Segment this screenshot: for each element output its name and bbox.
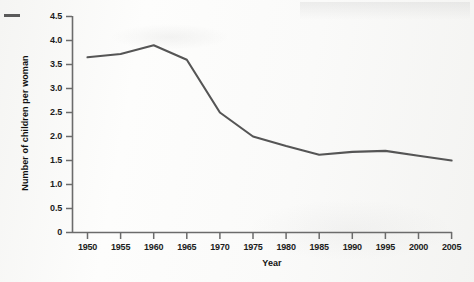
- x-tick-label: 1975: [236, 242, 270, 252]
- y-tick-label: 1.5: [36, 155, 62, 165]
- y-tick-label: 4.0: [36, 35, 62, 45]
- x-tick-label: 1970: [203, 242, 237, 252]
- y-tick-label: 1.0: [36, 179, 62, 189]
- line-chart: 4.5 4.0 3.5 3.0 2.5 2.0 1.5 1.0 0.5 0 19…: [0, 0, 474, 282]
- y-tick-label: 0.5: [36, 203, 62, 213]
- y-tick-label: 2.5: [36, 107, 62, 117]
- x-tick-label: 1990: [335, 242, 369, 252]
- x-tick-label: 1985: [302, 242, 336, 252]
- x-tick-label: 1950: [71, 242, 105, 252]
- x-tick-label: 2005: [435, 242, 469, 252]
- x-tick-label: 1960: [137, 242, 171, 252]
- x-tick-label: 1965: [170, 242, 204, 252]
- x-axis-title: Year: [232, 258, 312, 268]
- y-tick-label: 3.5: [36, 59, 62, 69]
- fertility-rate-line: [88, 45, 452, 160]
- y-tick-label: 0: [36, 227, 62, 237]
- y-axis-title: Number of children per woman: [20, 53, 30, 193]
- chart-canvas: [0, 0, 474, 282]
- x-tick-label: 1980: [269, 242, 303, 252]
- x-tick-label: 2000: [402, 242, 436, 252]
- axes: [72, 16, 452, 233]
- y-tick-label: 2.0: [36, 131, 62, 141]
- y-tick-label: 3.0: [36, 83, 62, 93]
- y-tick-label: 4.5: [36, 11, 62, 21]
- x-tick-label: 1995: [368, 242, 402, 252]
- y-axis-ticks: [66, 17, 72, 233]
- x-tick-label: 1955: [104, 242, 138, 252]
